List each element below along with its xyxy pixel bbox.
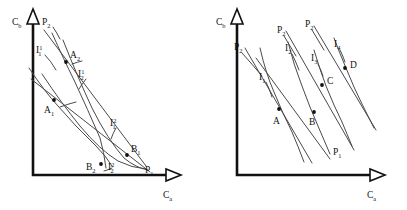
x-axis-arrow-icon [370,169,385,181]
point-B [312,110,316,114]
axis-lines [237,22,372,175]
point-A1 [52,98,56,102]
y-axis-arrow-icon [231,9,243,24]
point-A [277,107,281,111]
label-P2-left: P2 [42,17,51,29]
right-y-axis-label: Cb [216,17,226,29]
label-I1-2: I21 [110,117,116,131]
label-P1-left: P1 [145,165,154,177]
left-panel: Cb Ca P2 P1 I11 I12 I21 I22 A1 A2 B1 B2 [0,0,203,210]
left-y-axis-label: Cb [12,17,22,29]
label-B1: B1 [131,144,141,156]
budget-line-P1 [31,79,150,172]
indifference-curve-I2-2 [42,74,146,169]
label-I4-right: I4 [334,39,341,51]
label-P2-c: P2 [305,19,314,31]
label-A2: A2 [70,50,80,62]
point-D [343,66,347,70]
y-axis-arrow-icon [27,9,39,24]
indifference-curve-I1-1 [29,68,112,166]
label-P2-b: P2 [277,25,286,37]
right-x-axis-label: Ca [367,190,376,202]
indifference-curve-I3 [314,50,352,146]
right-panel: Cb Ca P2 P2 P2 P1 I1 I2 I3 I4 A B C D [204,0,407,210]
leader-I1-1 [45,55,56,70]
label-P2-a: P2 [234,42,243,54]
leader-I3 [318,64,323,76]
x-axis-arrow-icon [166,169,181,181]
label-C-right: C [327,76,333,86]
indifference-curve-I4 [334,38,374,128]
point-B2 [99,162,103,166]
point-B1 [125,153,129,157]
label-A1: A1 [44,105,54,117]
label-I3-right: I3 [311,53,317,65]
label-P1-right: P1 [333,147,342,159]
label-I2-2: I22 [108,161,114,175]
label-B-right: B [309,117,315,127]
label-D-right: D [350,60,357,70]
indifference-curve-figure: Cb Ca P2 P1 I11 I12 I21 I22 A1 A2 B1 B2 [0,0,407,210]
left-x-axis-label: Ca [163,190,172,202]
budget-line-P2-b [286,31,354,150]
label-B2: B2 [86,162,96,174]
label-I1-1: I11 [36,44,42,58]
budget-line-P2-a [245,48,312,163]
point-C [320,83,324,87]
label-I1-right: I1 [259,72,265,84]
label-A-right: A [273,116,280,126]
point-A2 [64,60,68,64]
